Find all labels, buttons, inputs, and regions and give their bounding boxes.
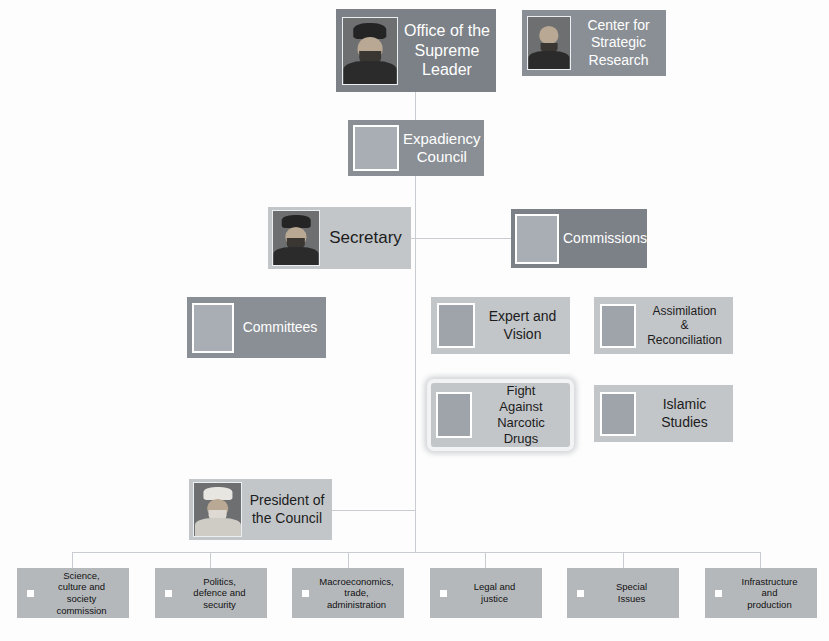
square-bullet-icon xyxy=(715,590,722,597)
committees-thumbnail-icon xyxy=(192,303,234,353)
node-islamic-studies[interactable]: Islamic Studies xyxy=(594,385,733,442)
strategic-research-portrait-icon xyxy=(527,16,571,70)
president-portrait-icon xyxy=(193,482,242,537)
expert-and-vision-thumbnail-icon xyxy=(437,303,475,348)
assimilation-thumbnail-icon xyxy=(600,304,636,348)
node-secretary[interactable]: Secretary xyxy=(268,207,411,269)
connector-drop-6 xyxy=(760,552,761,568)
node-label: Legal and justice xyxy=(447,581,542,604)
node-expediency-council[interactable]: Expadiency Council xyxy=(348,120,484,176)
node-commissions[interactable]: Commissions xyxy=(511,209,647,268)
commissions-thumbnail-icon xyxy=(515,214,559,264)
node-president-of-the-council[interactable]: President of the Council xyxy=(189,479,332,540)
node-assimilation-reconciliation[interactable]: Assimilation & Reconciliation xyxy=(594,297,733,354)
connector-drop-1 xyxy=(72,552,73,568)
node-label: Fight Against Narcotic Drugs xyxy=(472,383,570,446)
node-label: Committees xyxy=(234,319,326,336)
node-label: Expert and Vision xyxy=(475,308,570,342)
node-label: Infrastructure and production xyxy=(722,576,817,611)
node-label: Secretary xyxy=(320,228,411,249)
node-fight-against-narcotic-drugs[interactable]: Fight Against Narcotic Drugs xyxy=(427,379,574,451)
connector-to-president xyxy=(330,510,416,511)
expediency-council-thumbnail-icon xyxy=(353,125,399,171)
node-expert-and-vision[interactable]: Expert and Vision xyxy=(431,297,570,354)
connector-drop-5 xyxy=(623,552,624,568)
node-label: Macroeconomics, trade, administration xyxy=(309,576,404,611)
node-commission-science-culture-society[interactable]: Science, culture and society commission xyxy=(17,568,129,618)
secretary-portrait-icon xyxy=(272,210,320,266)
connector-commissions-bus xyxy=(72,552,760,553)
supreme-leader-portrait-icon xyxy=(342,17,398,85)
node-label: Expadiency Council xyxy=(399,130,484,167)
connector-bus-down-to-president xyxy=(415,238,416,510)
square-bullet-icon xyxy=(302,590,309,597)
square-bullet-icon xyxy=(165,590,172,597)
square-bullet-icon xyxy=(577,590,584,597)
node-center-for-strategic-research[interactable]: Center for Strategic Research xyxy=(522,10,666,76)
node-label: Office of the Supreme Leader xyxy=(398,21,496,80)
node-committees[interactable]: Committees xyxy=(187,297,326,358)
connector-drop-3 xyxy=(348,552,349,568)
connector-drop-4 xyxy=(485,552,486,568)
node-label: Science, culture and society commission xyxy=(34,570,129,616)
square-bullet-icon xyxy=(27,590,34,597)
node-label: Center for Strategic Research xyxy=(571,17,666,68)
node-label: Assimilation & Reconciliation xyxy=(636,304,733,348)
connector-leader-to-council xyxy=(415,92,416,120)
node-commission-macroeconomics-trade-administration[interactable]: Macroeconomics, trade, administration xyxy=(292,568,404,618)
connector-council-to-secretary-bus xyxy=(415,176,416,238)
square-bullet-icon xyxy=(440,590,447,597)
narcotic-drugs-thumbnail-icon xyxy=(436,392,472,438)
node-commission-infrastructure-and-production[interactable]: Infrastructure and production xyxy=(705,568,817,618)
node-label: Politics, defence and security xyxy=(172,576,267,611)
org-chart-canvas: Office of the Supreme Leader Center for … xyxy=(0,0,829,641)
node-label: Islamic Studies xyxy=(636,396,733,430)
node-label: President of the Council xyxy=(242,492,332,526)
connector-president-down xyxy=(415,510,416,552)
node-label: Commissions xyxy=(559,230,647,247)
connector-drop-2 xyxy=(210,552,211,568)
node-label: Special Issues xyxy=(584,581,679,604)
node-office-of-supreme-leader[interactable]: Office of the Supreme Leader xyxy=(336,9,496,92)
node-commission-legal-and-justice[interactable]: Legal and justice xyxy=(430,568,542,618)
node-commission-politics-defence-security[interactable]: Politics, defence and security xyxy=(155,568,267,618)
node-commission-special-issues[interactable]: Special Issues xyxy=(567,568,679,618)
islamic-studies-thumbnail-icon xyxy=(600,392,636,436)
